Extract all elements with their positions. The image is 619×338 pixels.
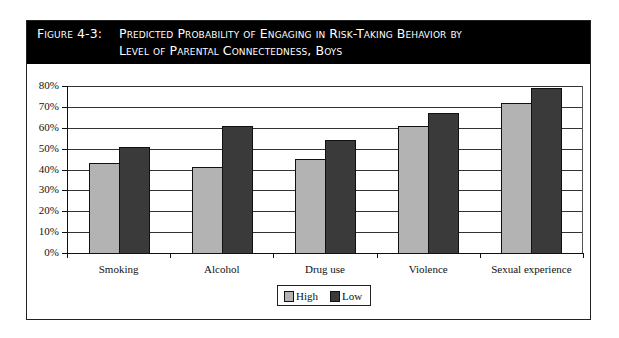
y-tick-label: 50% bbox=[19, 142, 59, 154]
legend-label-low: Low bbox=[342, 290, 362, 302]
y-tick-label: 60% bbox=[19, 121, 59, 133]
bar-low-alcohol bbox=[222, 126, 253, 254]
bar-high-drug-use bbox=[295, 159, 326, 254]
y-tick bbox=[62, 232, 67, 233]
x-category-label: Violence bbox=[377, 263, 480, 275]
y-tick-label: 30% bbox=[19, 183, 59, 195]
legend-item-high: High bbox=[284, 289, 318, 303]
x-tick bbox=[273, 253, 274, 258]
figure-title-bar: Figure 4-3: Predicted Probability of Eng… bbox=[27, 21, 590, 64]
figure-frame: Figure 4-3: Predicted Probability of Eng… bbox=[26, 20, 591, 320]
bar-high-violence bbox=[398, 126, 429, 254]
x-category-label: Drug use bbox=[273, 263, 376, 275]
y-tick bbox=[62, 170, 67, 171]
x-tick bbox=[480, 253, 481, 258]
x-tick bbox=[170, 253, 171, 258]
x-tick bbox=[583, 253, 584, 258]
y-tick bbox=[62, 128, 67, 129]
bar-low-sexual-experience bbox=[531, 88, 562, 254]
bar-high-sexual-experience bbox=[501, 103, 532, 254]
y-axis bbox=[67, 86, 68, 254]
y-tick bbox=[62, 190, 67, 191]
x-category-label: Smoking bbox=[67, 263, 170, 275]
legend-item-low: Low bbox=[330, 289, 362, 303]
x-category-label: Sexual experience bbox=[480, 263, 583, 275]
x-category-label: Alcohol bbox=[170, 263, 273, 275]
figure-title-text: Predicted Probability of Engaging in Ris… bbox=[119, 26, 462, 41]
y-tick-label: 80% bbox=[19, 79, 59, 91]
legend-swatch-high bbox=[284, 291, 294, 302]
x-tick bbox=[377, 253, 378, 258]
figure-label: Figure 4-3: bbox=[37, 26, 102, 41]
y-tick bbox=[62, 149, 67, 150]
gridline bbox=[67, 86, 582, 87]
y-tick bbox=[62, 107, 67, 108]
y-tick-label: 10% bbox=[19, 225, 59, 237]
y-tick-label: 20% bbox=[19, 204, 59, 216]
bar-low-drug-use bbox=[325, 140, 356, 254]
y-tick bbox=[62, 86, 67, 87]
x-tick bbox=[67, 253, 68, 258]
bar-low-violence bbox=[428, 113, 459, 254]
legend-label-high: High bbox=[296, 290, 318, 302]
figure-title-line-2: Level of Parental Connectedness, Boys bbox=[119, 43, 342, 58]
y-tick-label: 0% bbox=[19, 246, 59, 258]
legend: High Low bbox=[277, 285, 371, 306]
legend-swatch-low bbox=[330, 291, 340, 302]
bar-low-smoking bbox=[119, 147, 150, 254]
bar-high-smoking bbox=[89, 163, 120, 254]
figure-title-line-1: Figure 4-3: Predicted Probability of Eng… bbox=[37, 26, 102, 41]
y-tick bbox=[62, 211, 67, 212]
y-tick-label: 70% bbox=[19, 100, 59, 112]
y-tick-label: 40% bbox=[19, 163, 59, 175]
bar-high-alcohol bbox=[192, 167, 223, 254]
